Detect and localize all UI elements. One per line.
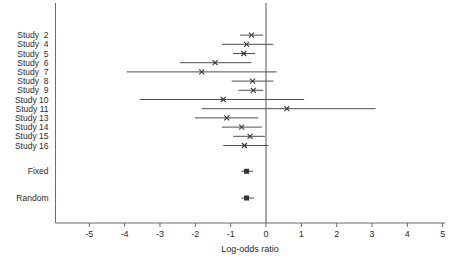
summary-estimate-marker bbox=[244, 169, 249, 174]
x-axis-tick-label: 3 bbox=[370, 229, 375, 239]
axes-layer: -5-4-3-2-1012345 bbox=[56, 3, 446, 239]
forest-plot-figure: -5-4-3-2-1012345 Study 2Study 4Study 5St… bbox=[0, 0, 461, 269]
forest-plot-chart: -5-4-3-2-1012345 Study 2Study 4Study 5St… bbox=[0, 0, 461, 269]
x-axis-tick-label: -3 bbox=[156, 229, 164, 239]
row-labels-layer: Study 2Study 4Study 5Study 6Study 7Study… bbox=[15, 30, 49, 203]
x-axis-tick-label: 1 bbox=[299, 229, 304, 239]
study-rows-layer bbox=[127, 33, 376, 201]
x-axis-tick-label: 2 bbox=[334, 229, 339, 239]
study-label: Study 16 bbox=[15, 141, 49, 151]
summary-estimate-marker bbox=[244, 196, 249, 201]
x-axis-tick-label: -2 bbox=[191, 229, 199, 239]
x-axis-title: Log-odds ratio bbox=[221, 244, 279, 254]
x-axis-tick-label: -5 bbox=[85, 229, 93, 239]
summary-label: Fixed bbox=[28, 166, 49, 176]
summary-label: Random bbox=[16, 193, 48, 203]
x-axis-tick-label: 0 bbox=[263, 229, 268, 239]
x-axis-tick-label: -4 bbox=[121, 229, 129, 239]
x-axis-tick-label: 5 bbox=[440, 229, 445, 239]
x-axis-tick-label: -1 bbox=[227, 229, 235, 239]
x-axis-tick-label: 4 bbox=[405, 229, 410, 239]
